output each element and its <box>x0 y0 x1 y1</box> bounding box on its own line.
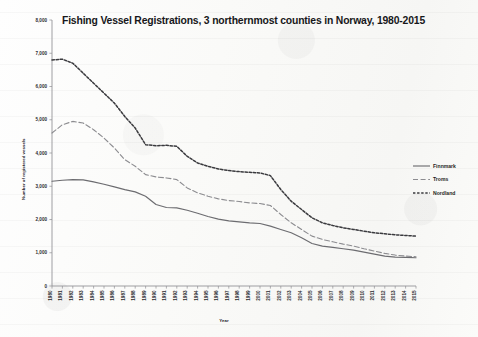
chart-legend: FinnmarkTromsNordland <box>413 163 456 196</box>
y-axis-tick-label: 3,000 <box>36 184 48 189</box>
x-axis-tick-label: 2008 <box>339 290 344 301</box>
x-axis-tick-label: 2001 <box>266 290 271 301</box>
x-axis-tick-label: 1999 <box>246 290 251 301</box>
y-axis-title: Number of registered vessels <box>21 138 26 200</box>
series-lines <box>52 59 416 258</box>
x-axis-tick-label: 2004 <box>298 290 303 301</box>
x-axis-tick-label: 1987 <box>121 290 126 301</box>
y-axis-tick-label: 8,000 <box>36 18 48 23</box>
x-axis-tick-label: 2003 <box>287 290 292 301</box>
x-axis-tick-label: 1997 <box>225 290 230 301</box>
series-line-nordland <box>52 59 416 236</box>
y-axis-tick-label: 5,000 <box>36 117 48 122</box>
x-axis-tick-label: 1996 <box>214 290 219 301</box>
y-axis-tick-label: 6,000 <box>36 84 48 89</box>
x-axis-tick-label: 1991 <box>162 290 167 301</box>
x-axis-tick-label: 1985 <box>100 290 105 301</box>
x-axis-tick-label: 2005 <box>308 290 313 301</box>
x-axis-tick-label: 2010 <box>360 290 365 301</box>
fishing-vessel-line-chart: Fishing Vessel Registrations, 3 northern… <box>0 0 478 337</box>
x-axis-title: Year <box>219 318 229 323</box>
x-axis-tick-label: 2002 <box>277 290 282 301</box>
x-axis-tick-label: 1990 <box>152 290 157 301</box>
x-axis-tick-label: 2007 <box>329 290 334 301</box>
x-axis-tick-label: 1980 <box>48 290 53 301</box>
x-axis-tick-label: 1984 <box>90 290 95 301</box>
x-axis-tick-label: 1998 <box>235 290 240 301</box>
x-axis-tick-label: 2000 <box>256 290 261 301</box>
x-axis-tick-labels: 1980198119821983198419851986198719881989… <box>48 290 417 301</box>
legend-label-troms: Troms <box>433 176 448 182</box>
x-axis-tick-label: 1989 <box>142 290 147 301</box>
x-axis-tick-label: 1988 <box>131 290 136 301</box>
x-axis-tick-label: 2015 <box>412 290 417 301</box>
x-axis-tick-label: 1986 <box>110 290 115 301</box>
x-axis-tick-label: 1982 <box>69 290 74 301</box>
x-axis-tick-label: 2009 <box>350 290 355 301</box>
x-axis-tick-label: 2006 <box>318 290 323 301</box>
series-line-finnmark <box>52 180 416 258</box>
x-axis-tick-label: 1994 <box>194 290 199 301</box>
x-axis-tick-label: 1995 <box>204 290 209 301</box>
x-axis-tick-label: 2011 <box>370 290 375 300</box>
y-axis-tick-labels: 8,0007,0006,0005,0004,0003,0002,0001,000… <box>36 18 48 289</box>
y-axis-tick-label: 2,000 <box>36 217 48 222</box>
x-axis-tick-label: 1993 <box>183 290 188 301</box>
series-line-troms <box>52 121 416 256</box>
chart-title: Fishing Vessel Registrations, 3 northern… <box>62 15 425 26</box>
x-axis-tick-label: 1981 <box>58 290 63 301</box>
y-axis-tick-label: 4,000 <box>36 151 48 156</box>
y-axis-tick-label: 7,000 <box>36 51 48 56</box>
legend-label-nordland: Nordland <box>433 190 455 196</box>
x-axis-tick-label: 2013 <box>391 290 396 301</box>
y-axis-tick-label: 1,000 <box>36 250 48 255</box>
x-axis-tick-label: 1992 <box>173 290 178 301</box>
legend-label-finnmark: Finnmark <box>433 163 456 169</box>
y-axis-tick-label: 0 <box>44 284 47 289</box>
x-axis-tick-label: 1983 <box>79 290 84 301</box>
x-axis-tick-label: 2014 <box>402 290 407 301</box>
x-axis-tick-label: 2012 <box>381 290 386 301</box>
